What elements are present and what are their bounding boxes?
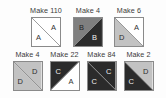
block-unit: Make 2DC [124, 50, 154, 91]
block-make-label: Make 84 [87, 50, 115, 59]
half-square-triangle-block: AA [31, 17, 61, 47]
half-square-triangle-block: CC [87, 61, 117, 91]
block-unit: Make 4BB [73, 6, 103, 47]
half-square-triangle-block: DD [13, 61, 43, 91]
half-square-triangle-block: AD [114, 17, 144, 47]
block-unit: Make 110AA [30, 6, 62, 47]
block-make-label: Make 22 [50, 50, 78, 59]
block-make-label: Make 6 [117, 6, 141, 15]
block-make-label: Make 4 [15, 50, 39, 59]
block-unit: Make 6AD [114, 6, 144, 47]
block-unit: Make 22CA [50, 50, 80, 91]
half-square-triangle-block: CA [50, 61, 80, 91]
block-make-label: Make 110 [30, 6, 62, 15]
block-make-label: Make 4 [76, 6, 100, 15]
block-row-bottom: Make 4DDMake 22CAMake 84CCMake 2DC [0, 50, 166, 91]
half-square-triangle-block: BB [73, 17, 103, 47]
block-make-label: Make 2 [126, 50, 150, 59]
half-square-triangle-block: DC [124, 61, 154, 91]
block-unit: Make 84CC [87, 50, 117, 91]
block-unit: Make 4DD [13, 50, 43, 91]
cutting-chart-sheet: Make 110AAMake 4BBMake 6AD Make 4DDMake … [0, 0, 166, 98]
block-row-top: Make 110AAMake 4BBMake 6AD [0, 6, 166, 47]
